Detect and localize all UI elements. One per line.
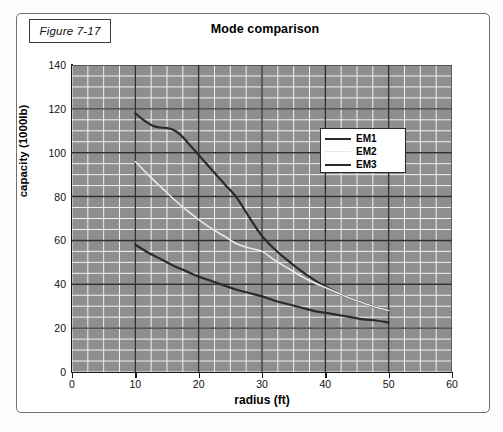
- x-tick-label: 40: [305, 378, 345, 390]
- x-tick-mark: [325, 373, 326, 378]
- x-axis-ticks: 0102030405060: [72, 378, 452, 394]
- chart-canvas: [72, 65, 452, 372]
- legend-item: EM2: [325, 145, 401, 158]
- chart-title: Mode comparison: [150, 22, 380, 36]
- plot-region: [72, 65, 452, 372]
- legend-item: EM3: [325, 158, 401, 171]
- legend-swatch-em3: [325, 164, 351, 166]
- plot-area: [72, 65, 452, 372]
- x-tick-label: 20: [179, 378, 219, 390]
- y-axis-title: capacity (1000lb): [17, 66, 29, 236]
- x-tick-mark: [199, 373, 200, 378]
- chart-legend: EM1 EM2 EM3: [320, 128, 406, 173]
- y-tick-label: 100: [26, 147, 66, 159]
- y-tick-label: 80: [26, 191, 66, 203]
- x-tick-label: 50: [369, 378, 409, 390]
- y-tick-label: 60: [26, 234, 66, 246]
- y-tick-label: 20: [26, 322, 66, 334]
- legend-swatch-em2: [325, 151, 351, 152]
- legend-label: EM1: [356, 132, 377, 145]
- y-tick-label: 0: [26, 366, 66, 378]
- x-tick-label: 0: [52, 378, 92, 390]
- x-tick-label: 60: [432, 378, 472, 390]
- y-tick-label: 40: [26, 278, 66, 290]
- y-tick-label: 140: [26, 59, 66, 71]
- y-tick-mark: [86, 372, 92, 373]
- x-tick-mark: [135, 373, 136, 378]
- x-tick-label: 30: [242, 378, 282, 390]
- y-tick-label: 120: [26, 103, 66, 115]
- x-tick-mark: [72, 373, 73, 378]
- x-axis-title: radius (ft): [72, 393, 452, 407]
- x-tick-mark: [262, 373, 263, 378]
- x-tick-mark: [389, 373, 390, 378]
- legend-item: EM1: [325, 132, 401, 145]
- legend-label: EM3: [356, 158, 377, 171]
- legend-swatch-em1: [325, 138, 351, 140]
- legend-label: EM2: [356, 145, 377, 158]
- x-tick-label: 10: [115, 378, 155, 390]
- figure-tag-label: Figure 7-17: [29, 19, 111, 43]
- x-tick-mark: [452, 373, 453, 378]
- figure-page: Figure 7-17 Mode comparison 020406080100…: [0, 0, 503, 432]
